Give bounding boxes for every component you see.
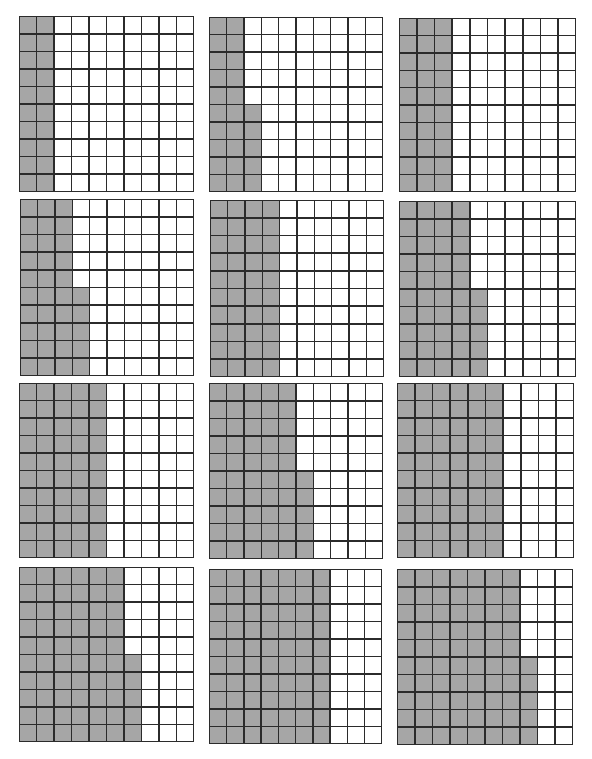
shaded-cell [56, 235, 72, 251]
shaded-cell [468, 605, 484, 621]
shaded-cell [56, 324, 72, 340]
shaded-cell [503, 675, 519, 691]
shaded-cell [37, 489, 53, 505]
empty-cell [556, 623, 572, 639]
shaded-cell [262, 454, 278, 470]
shaded-cell [296, 640, 312, 656]
empty-cell [297, 158, 313, 174]
empty-cell [125, 105, 141, 121]
shaded-cell [210, 570, 226, 586]
shaded-cell [55, 489, 71, 505]
empty-cell [332, 254, 348, 270]
empty-cell [366, 489, 382, 505]
empty-cell [350, 342, 366, 358]
empty-cell [559, 272, 575, 288]
empty-cell [504, 419, 520, 435]
empty-cell [280, 272, 296, 288]
empty-cell [506, 36, 522, 52]
empty-cell [125, 506, 141, 522]
empty-cell [365, 570, 381, 586]
shaded-cell [433, 489, 449, 505]
empty-cell [367, 307, 383, 323]
shaded-cell [521, 710, 537, 726]
shaded-cell [210, 605, 226, 621]
empty-cell [280, 236, 296, 252]
empty-cell [297, 88, 313, 104]
empty-cell [331, 437, 347, 453]
shaded-cell [56, 288, 72, 304]
empty-cell [177, 271, 193, 287]
shaded-cell [297, 489, 313, 505]
shaded-cell [486, 623, 502, 639]
empty-cell [177, 306, 193, 322]
empty-cell [177, 341, 193, 357]
shaded-cell [400, 202, 416, 218]
empty-cell [160, 585, 176, 601]
empty-cell [331, 727, 347, 743]
shaded-cell [20, 471, 36, 487]
empty-cell [280, 325, 296, 341]
empty-cell [349, 489, 365, 505]
shaded-cell [262, 570, 278, 586]
empty-cell [72, 70, 88, 86]
empty-cell [350, 307, 366, 323]
empty-cell [262, 140, 278, 156]
shaded-cell [416, 570, 432, 586]
empty-cell [556, 605, 572, 621]
empty-cell [160, 17, 176, 33]
empty-cell [298, 307, 314, 323]
shaded-cell [72, 436, 88, 452]
shaded-cell [21, 341, 37, 357]
shaded-cell [262, 657, 278, 673]
empty-cell [107, 122, 123, 138]
empty-cell [541, 220, 557, 236]
empty-cell [365, 640, 381, 656]
shaded-cell [418, 19, 434, 35]
shaded-cell [503, 640, 519, 656]
shaded-cell [418, 342, 434, 358]
empty-cell [559, 255, 575, 271]
shaded-cell [521, 658, 537, 674]
shaded-cell [246, 289, 262, 305]
empty-cell [348, 692, 364, 708]
empty-cell [72, 122, 88, 138]
empty-cell [524, 36, 540, 52]
shaded-cell [418, 140, 434, 156]
shaded-cell [468, 710, 484, 726]
shaded-cell [245, 692, 261, 708]
empty-cell [541, 19, 557, 35]
shaded-cell [296, 727, 312, 743]
shaded-cell [453, 307, 469, 323]
shaded-cell [486, 541, 502, 557]
shaded-cell [435, 54, 451, 70]
shaded-cell [211, 360, 227, 376]
empty-cell [125, 620, 141, 636]
hundred-grid-4 [20, 199, 194, 376]
shaded-cell [246, 325, 262, 341]
empty-cell [142, 306, 158, 322]
empty-cell [559, 19, 575, 35]
empty-cell [521, 570, 537, 586]
hundred-grid-10 [19, 567, 194, 742]
empty-cell [279, 70, 295, 86]
shaded-cell [451, 675, 467, 691]
shaded-cell [471, 325, 487, 341]
empty-cell [90, 288, 106, 304]
empty-cell [297, 437, 313, 453]
empty-cell [522, 454, 538, 470]
shaded-cell [211, 307, 227, 323]
empty-cell [557, 471, 573, 487]
shaded-cell [210, 18, 226, 34]
shaded-cell [433, 605, 449, 621]
empty-cell [107, 175, 123, 191]
shaded-cell [451, 588, 467, 604]
empty-cell [366, 88, 382, 104]
shaded-cell [486, 419, 502, 435]
empty-cell [541, 202, 557, 218]
empty-cell [506, 360, 522, 376]
empty-cell [331, 605, 347, 621]
empty-cell [125, 568, 141, 584]
shaded-cell [433, 728, 449, 744]
empty-cell [521, 605, 537, 621]
empty-cell [366, 53, 382, 69]
